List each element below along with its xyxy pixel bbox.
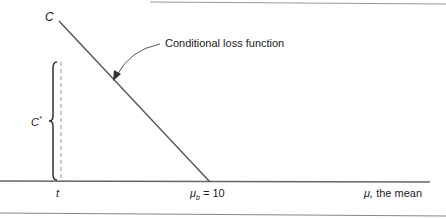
x-axis [0,181,430,182]
c-star-label: C* [31,115,42,128]
x-axis-label: μ, the mean [364,187,422,199]
t-label: t [56,187,59,199]
c-star-text: C [31,116,39,128]
c-star-brace [49,62,57,180]
mu-b-label: μb = 10 [190,187,225,201]
top-border [150,2,446,4]
c-star-sup: * [39,115,42,122]
arrowhead-icon [113,70,121,81]
x-axis-text: the mean [373,187,422,199]
bottom-border [0,213,446,216]
conditional-loss-annotation: Conditional loss function [165,37,284,49]
x-axis-symbol: μ, [364,187,373,199]
annotation-arrow [117,44,160,75]
mu-b-value: = 10 [200,187,225,199]
conditional-loss-diagram: C C* Conditional loss function t μb = 10… [0,0,446,219]
y-axis-label-c: C [45,10,54,24]
